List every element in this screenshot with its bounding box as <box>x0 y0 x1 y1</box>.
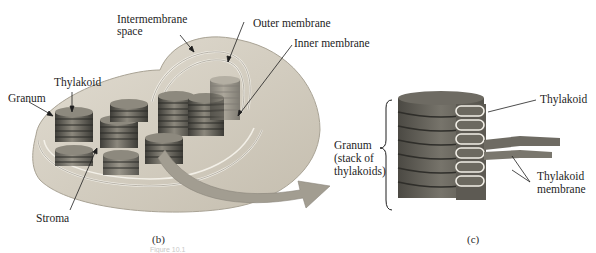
caption-panel-b: (b) <box>152 233 165 245</box>
label-stroma: Stroma <box>36 212 69 224</box>
caption-panel-c: (c) <box>467 233 479 245</box>
label-intermembrane-space-line1: Intermembrane <box>117 13 187 25</box>
faint-figure-caption: Figure 10.1 <box>150 246 185 253</box>
label-granum-c-line3: thylakoids) <box>334 165 386 177</box>
label-thylakoid-c: Thylakoid <box>540 93 587 105</box>
label-inner-membrane: Inner membrane <box>294 37 370 49</box>
label-thylakoid-b: Thylakoid <box>54 76 101 88</box>
chloroplast-figure: Intermembrane space Outer membrane Inner… <box>0 0 596 253</box>
label-granum-c-line1: Granum <box>334 139 372 151</box>
label-thylakoid-membrane-line2: membrane <box>537 183 586 195</box>
label-thylakoid-membrane-line1: Thylakoid <box>537 170 584 182</box>
label-granum-c-line2: (stack of <box>334 152 374 164</box>
granum-cutaway <box>380 91 560 210</box>
label-outer-membrane: Outer membrane <box>253 17 331 29</box>
label-intermembrane-space-line2: space <box>117 25 143 37</box>
label-granum-b: Granum <box>8 92 46 104</box>
